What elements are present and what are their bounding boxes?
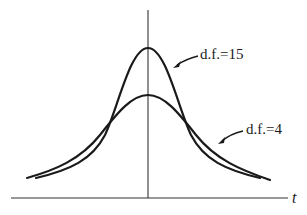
x-axis-label: t [292,189,297,206]
t-distribution-diagram: d.f.=15 d.f.=4 t [0,0,307,215]
label-df4: d.f.=4 [246,121,282,137]
arrow-df15 [177,56,198,65]
arrowhead-df4-icon [218,137,225,144]
label-df15: d.f.=15 [200,46,243,62]
arrowhead-df15-icon [173,61,181,68]
arrow-df4 [222,131,243,141]
